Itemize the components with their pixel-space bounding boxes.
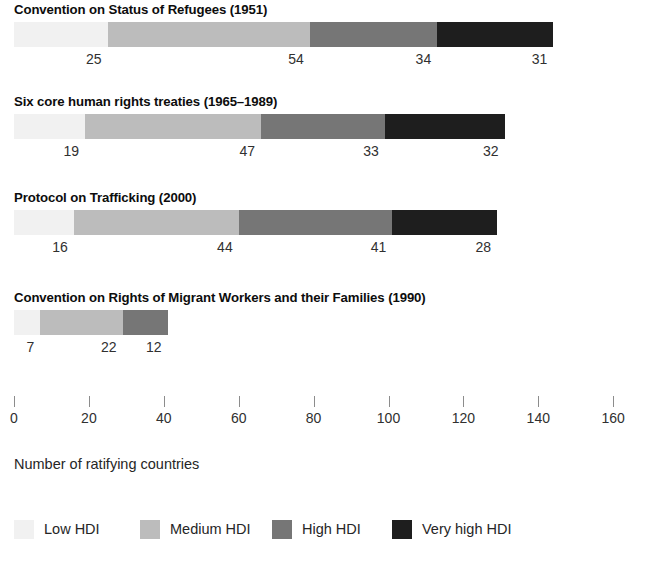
bar-segment[interactable] — [14, 114, 85, 139]
axis-tick-mark — [14, 396, 15, 407]
axis-tick-label: 20 — [69, 410, 109, 427]
segment-value-label: 47 — [199, 142, 255, 160]
segment-value-row: 72212 — [0, 338, 658, 358]
segment-value-label: 34 — [375, 50, 431, 68]
segment-value-label: 54 — [248, 50, 304, 68]
legend-swatch-icon — [272, 520, 292, 539]
segment-value-label: 16 — [12, 238, 68, 256]
bar-track — [0, 114, 658, 139]
bar-segment[interactable] — [40, 310, 122, 335]
bar-segment[interactable] — [310, 22, 437, 47]
legend-swatch-icon — [392, 520, 412, 539]
segment-value-label: 25 — [46, 50, 102, 68]
axis-tick-label: 140 — [518, 410, 558, 427]
segment-value-label: 19 — [23, 142, 79, 160]
segment-value-label: 28 — [435, 238, 491, 256]
segment-value-label: 7 — [0, 338, 34, 356]
legend-label: Medium HDI — [170, 520, 251, 539]
segment-value-label: 31 — [491, 50, 547, 68]
bar-group: Convention on Rights of Migrant Workers … — [0, 290, 658, 358]
axis-tick-mark — [613, 396, 614, 407]
bar-segment[interactable] — [239, 210, 393, 235]
bar-group-title: Six core human rights treaties (1965–198… — [0, 94, 658, 110]
segment-value-label: 44 — [177, 238, 233, 256]
bar-segment[interactable] — [85, 114, 261, 139]
bar-group-title: Protocol on Trafficking (2000) — [0, 190, 658, 206]
chart-legend: Low HDIMedium HDIHigh HDIVery high HDI — [0, 518, 658, 548]
bar-segment[interactable] — [14, 22, 108, 47]
axis-tick-label: 0 — [0, 410, 34, 427]
legend-item[interactable]: Medium HDI — [140, 518, 251, 540]
segment-value-label: 32 — [443, 142, 499, 160]
bar-track — [0, 210, 658, 235]
axis-tick-label: 100 — [369, 410, 409, 427]
bar-segment[interactable] — [437, 22, 553, 47]
segment-value-label: 41 — [330, 238, 386, 256]
x-axis-title: Number of ratifying countries — [14, 455, 199, 474]
axis-tick-label: 120 — [443, 410, 483, 427]
axis-tick-mark — [239, 396, 240, 407]
axis-tick-mark — [164, 396, 165, 407]
legend-item[interactable]: High HDI — [272, 518, 361, 540]
bar-segment[interactable] — [108, 22, 310, 47]
legend-label: Very high HDI — [422, 520, 511, 539]
bar-segment[interactable] — [392, 210, 497, 235]
axis-tick-label: 80 — [294, 410, 334, 427]
bar-segment[interactable] — [14, 310, 40, 335]
legend-label: Low HDI — [44, 520, 100, 539]
axis-tick-mark — [538, 396, 539, 407]
legend-swatch-icon — [140, 520, 160, 539]
bar-segment[interactable] — [14, 210, 74, 235]
bar-group-title: Convention on Status of Refugees (1951) — [0, 2, 658, 18]
segment-value-label: 12 — [106, 338, 162, 356]
bar-group: Convention on Status of Refugees (1951)2… — [0, 2, 658, 70]
stacked-bar-chart: Convention on Status of Refugees (1951)2… — [0, 0, 658, 575]
legend-item[interactable]: Low HDI — [14, 518, 100, 540]
segment-value-label: 33 — [323, 142, 379, 160]
axis-tick-mark — [463, 396, 464, 407]
x-axis: 020406080100120140160 — [0, 396, 658, 436]
bar-group-title: Convention on Rights of Migrant Workers … — [0, 290, 658, 306]
axis-tick-mark — [89, 396, 90, 407]
bar-segment[interactable] — [385, 114, 505, 139]
segment-value-row: 19473332 — [0, 142, 658, 162]
axis-tick-mark — [314, 396, 315, 407]
bar-track — [0, 22, 658, 47]
bar-segment[interactable] — [74, 210, 239, 235]
segment-value-row: 16444128 — [0, 238, 658, 258]
legend-swatch-icon — [14, 520, 34, 539]
bar-group: Protocol on Trafficking (2000)16444128 — [0, 190, 658, 258]
bar-segment[interactable] — [123, 310, 168, 335]
legend-label: High HDI — [302, 520, 361, 539]
axis-tick-label: 40 — [144, 410, 184, 427]
segment-value-row: 25543431 — [0, 50, 658, 70]
axis-tick-label: 160 — [593, 410, 633, 427]
axis-tick-mark — [389, 396, 390, 407]
bar-track — [0, 310, 658, 335]
legend-item[interactable]: Very high HDI — [392, 518, 511, 540]
bar-segment[interactable] — [261, 114, 385, 139]
axis-tick-label: 60 — [219, 410, 259, 427]
bar-group: Six core human rights treaties (1965–198… — [0, 94, 658, 162]
